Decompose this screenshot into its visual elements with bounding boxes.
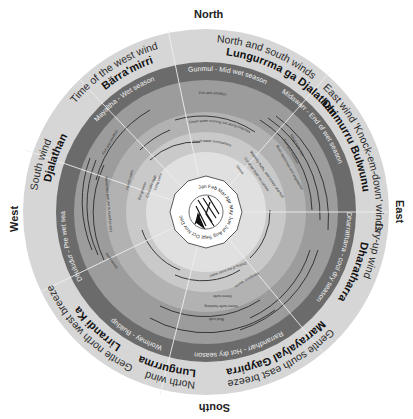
note-turtle-hatching: Green turtle hatching <box>204 304 238 308</box>
note-green-turtle-s: Green turtle <box>213 294 232 298</box>
compass-north: North <box>194 8 224 20</box>
compass-east: East <box>394 200 406 224</box>
compass-south: South <box>199 402 230 414</box>
note-mud-crab: Mud crab <box>209 317 224 321</box>
compass-west: West <box>8 206 20 232</box>
seasonal-calendar-wheel: North East South West North and south wi… <box>0 0 413 419</box>
